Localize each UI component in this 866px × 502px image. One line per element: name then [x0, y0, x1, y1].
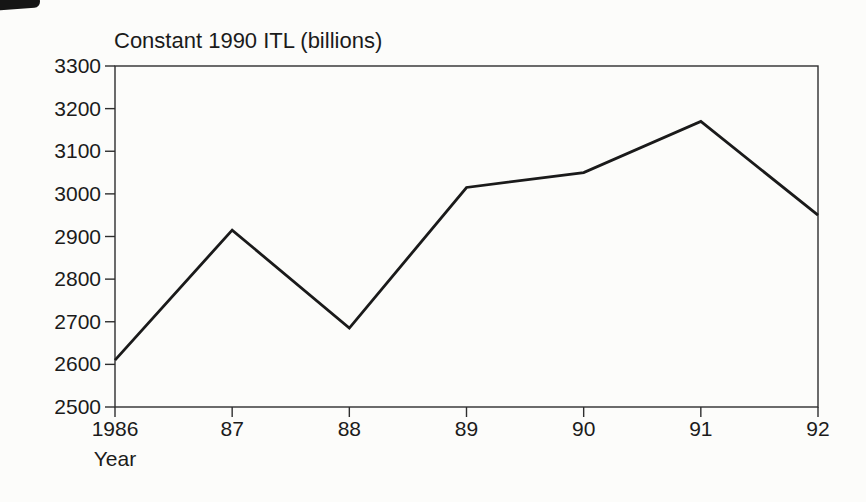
y-tick-label: 2500: [21, 395, 101, 419]
data-line: [115, 121, 818, 360]
y-tick-label: 2600: [21, 352, 101, 376]
x-tick-label: 88: [309, 417, 389, 441]
y-tick-label: 3200: [21, 97, 101, 121]
x-tick-label: 91: [661, 417, 741, 441]
plot-frame: [115, 66, 818, 407]
x-tick-label: 1986: [75, 417, 155, 441]
x-tick-label: 89: [427, 417, 507, 441]
y-tick-label: 2700: [21, 310, 101, 334]
y-tick-label: 3100: [21, 139, 101, 163]
y-tick-label: 3000: [21, 182, 101, 206]
y-tick-label: 2900: [21, 225, 101, 249]
x-tick-label: 92: [778, 417, 858, 441]
x-axis-label: Year: [75, 447, 155, 471]
y-tick-label: 2800: [21, 267, 101, 291]
x-tick-label: 90: [544, 417, 624, 441]
x-tick-label: 87: [192, 417, 272, 441]
y-tick-label: 3300: [21, 54, 101, 78]
scanned-chart-page: Constant 1990 ITL (billions) 25002600270…: [0, 0, 866, 502]
